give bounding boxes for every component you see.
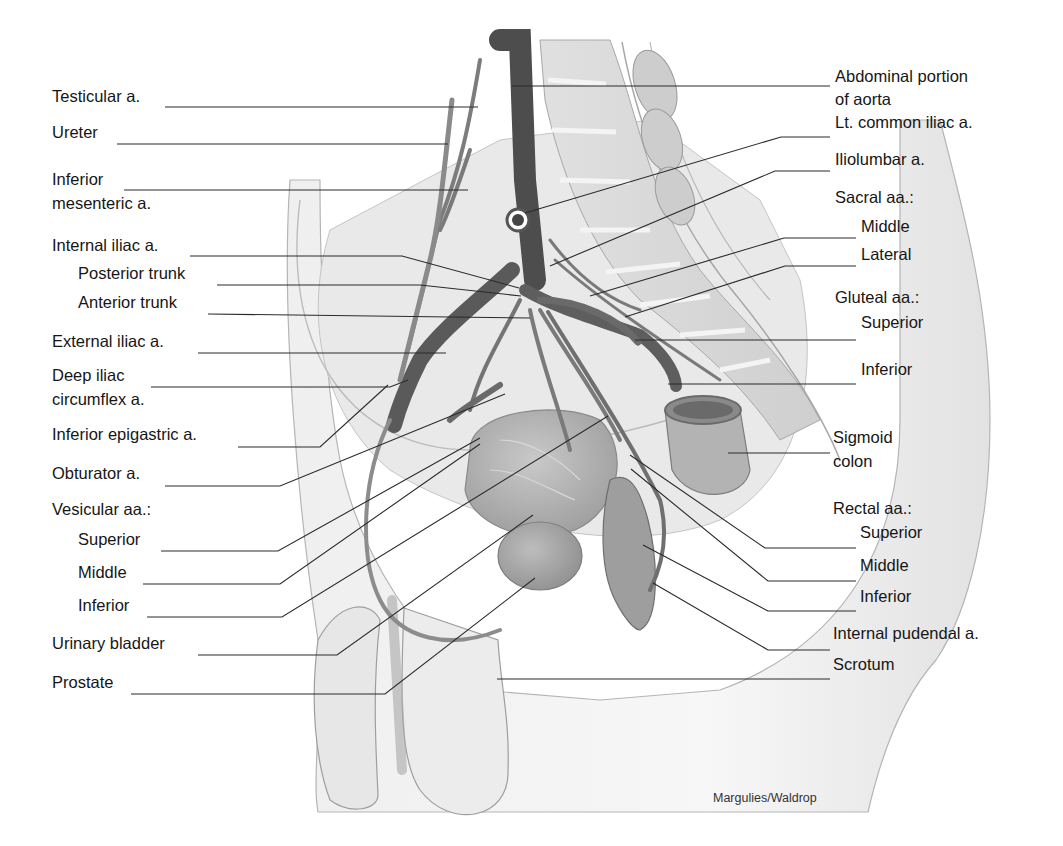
- label-prostate: Prostate: [52, 672, 113, 692]
- label-inferior-mesenteric-2: mesenteric a.: [52, 193, 151, 213]
- label-sacral-header: Sacral aa.:: [835, 187, 914, 207]
- label-vesicular-inferior: Inferior: [78, 595, 129, 615]
- label-testicular: Testicular a.: [52, 86, 140, 106]
- label-external-iliac: External iliac a.: [52, 331, 164, 351]
- label-lt-common-iliac: Lt. common iliac a.: [835, 112, 973, 132]
- label-ureter: Ureter: [52, 122, 98, 142]
- label-urinary-bladder: Urinary bladder: [52, 633, 165, 653]
- label-vesicular-superior: Superior: [78, 529, 140, 549]
- label-gluteal-superior: Superior: [861, 312, 923, 332]
- label-rectal-inferior: Inferior: [860, 586, 911, 606]
- label-anterior-trunk: Anterior trunk: [78, 292, 177, 312]
- label-posterior-trunk: Posterior trunk: [78, 263, 185, 283]
- label-obturator: Obturator a.: [52, 463, 140, 483]
- illustration-credit: Margulies/Waldrop: [713, 791, 817, 805]
- label-vesicular-header: Vesicular aa.:: [52, 499, 151, 519]
- label-scrotum: Scrotum: [833, 654, 894, 674]
- label-deep-iliac-2: circumflex a.: [52, 389, 145, 409]
- label-gluteal-header: Gluteal aa.:: [835, 287, 919, 307]
- leader-internal-pudendal: [653, 583, 830, 650]
- label-rectal-middle: Middle: [860, 555, 909, 575]
- label-sigmoid-2: colon: [833, 451, 872, 471]
- label-internal-iliac: Internal iliac a.: [52, 235, 158, 255]
- label-deep-iliac-1: Deep iliac: [52, 365, 124, 385]
- label-inferior-mesenteric-1: Inferior: [52, 169, 103, 189]
- label-rectal-header: Rectal aa.:: [833, 498, 912, 518]
- pelvic-arteries-diagram: Testicular a.UreterInferiormesenteric a.…: [0, 0, 1063, 846]
- label-inferior-epigastric: Inferior epigastric a.: [52, 424, 197, 444]
- label-sacral-middle: Middle: [861, 216, 910, 236]
- label-aorta-1: Abdominal portion: [835, 66, 968, 86]
- label-gluteal-inferior: Inferior: [861, 359, 912, 379]
- label-vesicular-middle: Middle: [78, 562, 127, 582]
- label-internal-pudendal: Internal pudendal a.: [833, 623, 979, 643]
- label-aorta-2: of aorta: [835, 89, 891, 109]
- leader-rectal-inferior: [643, 545, 856, 611]
- label-sigmoid-1: Sigmoid: [833, 427, 893, 447]
- label-sacral-lateral: Lateral: [861, 244, 911, 264]
- label-rectal-superior: Superior: [860, 522, 922, 542]
- label-iliolumbar: Iliolumbar a.: [835, 149, 925, 169]
